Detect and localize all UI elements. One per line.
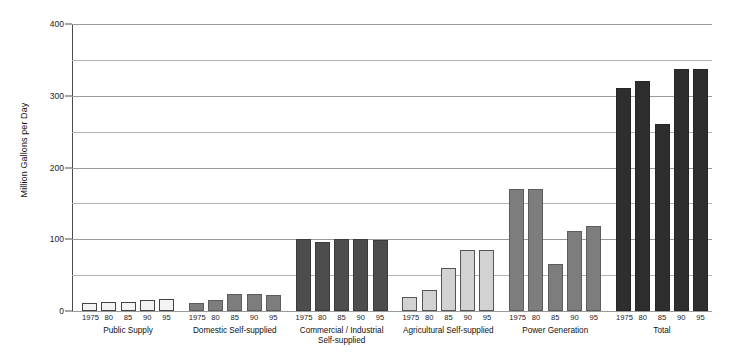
x-tick-label: 80 [315, 313, 330, 322]
x-tick-label: 80 [101, 313, 116, 322]
x-tick-labels: 197580859095 [82, 313, 174, 322]
x-tick-label: 85 [121, 313, 136, 322]
x-tick-label: 95 [373, 313, 388, 322]
x-tick-labels: 197580859095 [189, 313, 281, 322]
y-tick-label: 200 [26, 163, 64, 173]
bar[interactable] [586, 226, 601, 311]
bar[interactable] [315, 242, 330, 311]
bar[interactable] [479, 250, 494, 311]
bar[interactable] [674, 69, 689, 311]
bar-group-bars [82, 24, 174, 311]
y-tick-label: 300 [26, 91, 64, 101]
bar-group-bars [296, 24, 388, 311]
bar-group: 197580859095Public Supply [82, 24, 174, 311]
bar[interactable] [402, 297, 417, 311]
x-tick-label: 85 [441, 313, 456, 322]
bar[interactable] [159, 299, 174, 311]
bar[interactable] [101, 302, 116, 311]
y-tick-label: 100 [26, 234, 64, 244]
bar-groups: 197580859095Public Supply197580859095Dom… [72, 24, 712, 311]
x-tick-label: 90 [140, 313, 155, 322]
x-tick-label: 85 [227, 313, 242, 322]
bar[interactable] [422, 290, 437, 311]
x-tick-labels: 197580859095 [509, 313, 601, 322]
x-tick-label: 90 [247, 313, 262, 322]
bar[interactable] [441, 268, 456, 311]
bar[interactable] [548, 264, 563, 311]
x-tick-label: 95 [693, 313, 708, 322]
x-tick-label: 85 [548, 313, 563, 322]
bar[interactable] [616, 88, 631, 311]
x-tick-labels: 197580859095 [296, 313, 388, 322]
bar[interactable] [266, 295, 281, 312]
x-tick-label: 90 [567, 313, 582, 322]
plot-area: Million Gallons per Day 0100200300400 19… [72, 24, 712, 311]
y-tick-label: 0 [26, 306, 64, 316]
bar[interactable] [693, 69, 708, 311]
x-tick-label: 80 [208, 313, 223, 322]
bar[interactable] [567, 231, 582, 311]
x-tick-label: 90 [353, 313, 368, 322]
bar[interactable] [635, 81, 650, 311]
y-tick-mark [65, 24, 72, 25]
x-tick-labels: 197580859095 [616, 313, 708, 322]
x-tick-label: 85 [334, 313, 349, 322]
bar[interactable] [509, 189, 524, 311]
x-tick-label: 90 [674, 313, 689, 322]
bar[interactable] [189, 303, 204, 311]
bar[interactable] [227, 294, 242, 311]
bar[interactable] [247, 294, 262, 311]
x-tick-label: 1975 [82, 313, 97, 322]
bar[interactable] [208, 300, 223, 311]
bar-group-bars [616, 24, 708, 311]
x-tick-labels: 197580859095 [402, 313, 494, 322]
x-tick-label: 95 [586, 313, 601, 322]
bar-group: 197580859095Total [616, 24, 708, 311]
bar[interactable] [121, 302, 136, 311]
x-tick-label: 95 [479, 313, 494, 322]
bar[interactable] [353, 239, 368, 311]
y-tick-mark [65, 311, 72, 312]
x-tick-label: 95 [159, 313, 174, 322]
x-tick-label: 1975 [509, 313, 524, 322]
bar[interactable] [296, 239, 311, 311]
gridline-major [72, 311, 712, 312]
x-tick-label: 80 [635, 313, 650, 322]
y-axis-title: Million Gallons per Day [19, 103, 29, 198]
bar-group: 197580859095Power Generation [509, 24, 601, 311]
bar[interactable] [82, 303, 97, 311]
bar[interactable] [460, 250, 475, 311]
x-tick-label: 1975 [189, 313, 204, 322]
bar-group: 197580859095Commercial / Industrial Self… [296, 24, 388, 311]
bar[interactable] [140, 300, 155, 311]
y-tick-label: 400 [26, 19, 64, 29]
bar[interactable] [655, 124, 670, 311]
x-tick-label: 1975 [616, 313, 631, 322]
bar-group: 197580859095Domestic Self-supplied [189, 24, 281, 311]
bar-group-label: Total [586, 326, 738, 336]
x-tick-label: 1975 [402, 313, 417, 322]
x-tick-label: 80 [528, 313, 543, 322]
bar-group-bars [509, 24, 601, 311]
y-tick-mark [65, 239, 72, 240]
y-tick-mark [65, 95, 72, 96]
water-use-bar-chart: Million Gallons per Day 0100200300400 19… [0, 0, 749, 353]
y-tick-mark [65, 167, 72, 168]
x-tick-label: 95 [266, 313, 281, 322]
bar-group-bars [402, 24, 494, 311]
bar-group-bars [189, 24, 281, 311]
bar[interactable] [334, 239, 349, 311]
bar-group: 197580859095Agricultural Self-supplied [402, 24, 494, 311]
x-tick-label: 1975 [296, 313, 311, 322]
x-tick-label: 80 [422, 313, 437, 322]
x-tick-label: 85 [655, 313, 670, 322]
bar[interactable] [528, 189, 543, 311]
bar[interactable] [373, 240, 388, 311]
x-tick-label: 90 [460, 313, 475, 322]
